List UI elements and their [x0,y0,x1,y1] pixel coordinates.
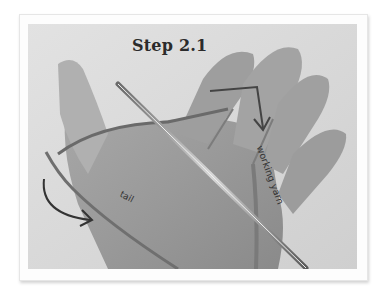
hand-illustration [28,24,357,269]
knitting-photo: Step 2.1 tail working yarn [28,24,357,269]
step-title: Step 2.1 [132,36,207,55]
